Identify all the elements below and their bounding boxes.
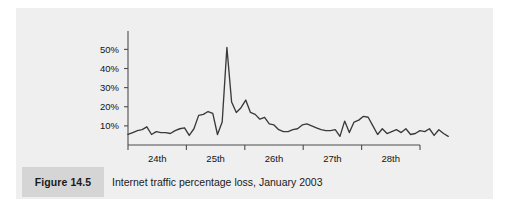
x-tick-label: 26th	[265, 153, 284, 163]
figure-caption-box: Internet traffic percentage loss, Januar…	[112, 167, 487, 197]
y-tick-label: 40%	[100, 63, 120, 74]
x-tick-label: 27th	[323, 153, 342, 163]
data-series-line	[128, 47, 448, 136]
y-tick-label: 30%	[100, 82, 120, 93]
x-tick-label: 28th	[382, 153, 401, 163]
figure-root: 10%20%30%40%50%24th25th26th27th28th Figu…	[0, 0, 516, 212]
chart-plot-area: 10%20%30%40%50%24th25th26th27th28th	[16, 8, 493, 163]
figure-caption-label: Internet traffic percentage loss, Januar…	[112, 176, 323, 188]
y-tick-label: 10%	[100, 120, 120, 131]
figure-number-label: Figure 14.5	[35, 176, 92, 188]
x-tick-label: 25th	[206, 153, 225, 163]
line-chart-svg: 10%20%30%40%50%24th25th26th27th28th	[16, 8, 493, 163]
figure-number-box: Figure 14.5	[22, 167, 104, 197]
x-tick-label: 24th	[148, 153, 167, 163]
figure-caption-bar: Figure 14.5 Internet traffic percentage …	[16, 165, 493, 199]
y-tick-label: 50%	[100, 44, 120, 55]
figure-panel: 10%20%30%40%50%24th25th26th27th28th Figu…	[16, 8, 493, 199]
y-tick-label: 20%	[100, 101, 120, 112]
